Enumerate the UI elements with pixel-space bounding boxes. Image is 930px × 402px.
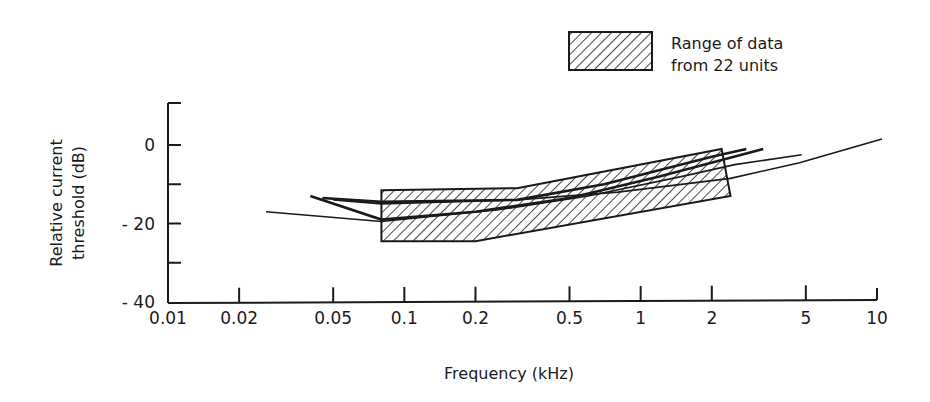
y-tick-label: - 20 — [122, 214, 155, 234]
y-axis-title-line2: threshold (dB) — [69, 146, 88, 260]
chart: Range of data from 22 units Relative cur… — [0, 0, 930, 402]
range-band-area — [381, 149, 730, 241]
legend: Range of data from 22 units — [569, 32, 783, 75]
x-tick-label: 0.5 — [556, 308, 583, 328]
range-band — [381, 149, 730, 241]
x-axis-title: Frequency (kHz) — [444, 364, 574, 383]
x-tick-label: 1 — [635, 308, 646, 328]
x-tick-label: 0.01 — [149, 308, 187, 328]
x-ticks: 0.010.020.050.10.20.512510 — [149, 285, 888, 328]
y-tick-label: 0 — [144, 135, 155, 155]
y-axis-title: Relative current threshold (dB) — [47, 139, 88, 266]
x-tick-label: 5 — [800, 308, 811, 328]
legend-swatch-hatched — [569, 32, 652, 70]
x-tick-label: 10 — [866, 308, 888, 328]
x-tick-label: 2 — [706, 308, 717, 328]
y-ticks: 0- 20- 40 — [122, 135, 181, 312]
y-axis-title-line1: Relative current — [47, 139, 66, 266]
x-tick-label: 0.2 — [462, 308, 489, 328]
x-tick-label: 0.02 — [220, 308, 258, 328]
x-tick-label: 0.05 — [314, 308, 352, 328]
legend-label-line2: from 22 units — [671, 56, 778, 75]
x-axis-line — [168, 300, 877, 303]
x-tick-label: 0.1 — [391, 308, 418, 328]
legend-label-line1: Range of data — [671, 34, 783, 53]
